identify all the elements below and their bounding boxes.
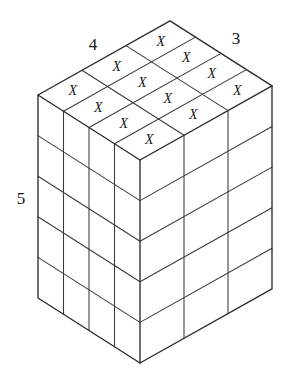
top-face-x-mark: X (111, 59, 121, 74)
top-face-x-mark: X (93, 100, 103, 115)
depth-label: 3 (232, 29, 241, 48)
top-face-x-mark: X (67, 83, 77, 98)
top-face-x-mark: X (188, 107, 198, 122)
height-label: 5 (17, 189, 26, 208)
top-face-x-mark: X (162, 91, 172, 106)
figure-container: XXXXXXXXXXXX 435 (0, 0, 293, 382)
top-face-x-mark: X (206, 66, 216, 81)
top-face-x-mark: X (155, 34, 165, 49)
isometric-block-diagram: XXXXXXXXXXXX 435 (0, 0, 293, 382)
top-face-x-mark: X (232, 83, 242, 98)
top-face-x-mark: X (137, 75, 147, 90)
top-face-x-mark: X (144, 132, 154, 147)
width-label: 4 (89, 35, 98, 54)
top-face-x-mark: X (181, 50, 191, 65)
top-face-x-mark: X (118, 116, 128, 131)
